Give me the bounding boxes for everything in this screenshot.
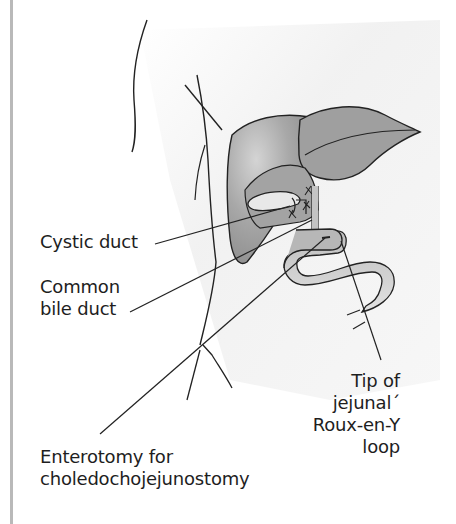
label-common-bile-duct: Common bile duct [40,276,120,320]
label-tip-of-loop: Tip of jejunal´ Roux-en-Y loop [313,370,400,458]
label-enterotomy-line2: choledochojejunostomy [40,468,250,490]
label-cystic-duct: Cystic duct [40,231,138,253]
diagram-canvas: Cystic duct Common bile duct Enterotomy … [0,0,456,524]
label-common-bile-duct-line2: bile duct [40,298,120,320]
label-common-bile-duct-line1: Common [40,276,120,298]
label-tip-line1: Tip of [313,370,400,392]
enterotomy-site [322,237,330,238]
label-enterotomy-line1: Enterotomy for [40,446,250,468]
label-tip-line3: Roux-en-Y [313,414,400,436]
label-enterotomy: Enterotomy for choledochojejunostomy [40,446,250,490]
body-outline-lower-left [187,350,200,400]
label-cystic-duct-text: Cystic duct [40,231,138,253]
label-tip-line4: loop [313,436,400,458]
common-bile-duct-fill [312,186,318,230]
label-tip-line2: jejunal´ [313,392,400,414]
